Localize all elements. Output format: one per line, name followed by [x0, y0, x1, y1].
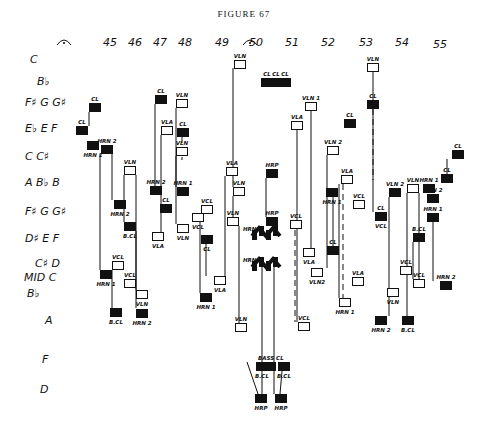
filled-note-box: [278, 362, 290, 371]
open-note-box: [367, 63, 379, 72]
instrument-label: VCL: [369, 223, 393, 229]
open-note-box: [227, 217, 239, 226]
filled-note-box: [275, 394, 287, 403]
open-note-box: [233, 187, 245, 196]
instrument-label: HRN 2: [369, 327, 393, 333]
instrument-label: B.CL: [104, 319, 128, 325]
instrument-label: VLN2: [305, 279, 329, 285]
open-note-box: [136, 290, 148, 299]
filled-note-box: [100, 270, 112, 279]
filled-note-box: [266, 169, 278, 178]
instrument-label: HRN 1: [320, 199, 344, 205]
instrument-label: VLA: [297, 259, 321, 265]
open-note-box: [303, 248, 315, 257]
filled-note-box: [76, 126, 88, 135]
instrument-label: HRN 2: [144, 179, 168, 185]
instrument-label: VLN: [381, 299, 405, 305]
filled-note-box: [201, 235, 213, 244]
filled-note-box: [402, 316, 414, 325]
instrument-label: CL: [154, 197, 178, 203]
open-note-box: [124, 279, 136, 288]
instrument-label: VLA: [346, 270, 370, 276]
open-note-box: [352, 277, 364, 286]
filled-note-box: [124, 222, 136, 231]
open-note-box: [291, 121, 303, 130]
instrument-label: VCL: [118, 272, 142, 278]
instrument-label: HRN 1: [94, 281, 118, 287]
instrument-label: VLA: [220, 160, 244, 166]
filled-note-box: [177, 187, 189, 196]
filled-note-box: [266, 217, 278, 226]
instrument-label: VLN: [221, 210, 245, 216]
filled-note-box: [441, 174, 453, 183]
open-note-box: [353, 200, 365, 209]
instrument-label: CL: [361, 93, 385, 99]
open-note-box: [112, 261, 124, 270]
filled-note-box: [160, 204, 172, 213]
filled-note-box: [89, 103, 101, 112]
instrument-label: VLN: [228, 53, 252, 59]
instrument-label: VLN 2: [321, 139, 345, 145]
instrument-label: VLN: [118, 159, 142, 165]
instrument-label: VCL: [407, 272, 431, 278]
instrument-label: CL: [171, 121, 195, 127]
instrument-label: VLN: [130, 301, 154, 307]
instrument-label: B.CL: [407, 226, 431, 232]
open-note-box: [305, 102, 317, 111]
instrument-label: CL: [70, 119, 94, 125]
instrument-label: VLA: [146, 243, 170, 249]
instrument-label: VCL: [186, 224, 210, 230]
filled-note-box: [326, 188, 338, 197]
instrument-label: HRN 2: [421, 187, 445, 193]
instrument-label: VLN: [171, 235, 195, 241]
filled-note-box: [375, 316, 387, 325]
filled-note-box: [150, 186, 162, 195]
instrument-label: VLA: [285, 114, 309, 120]
instrument-label: B.CL: [250, 373, 274, 379]
instrument-label: VCL: [347, 193, 371, 199]
instrument-label: B.CL: [118, 233, 142, 239]
instrument-label: VCL: [195, 198, 219, 204]
instrument-label: HRP: [260, 162, 284, 168]
instrument-label: HRN 2: [108, 211, 132, 217]
open-note-box: [298, 322, 310, 331]
instrument-label: HRN 1: [417, 177, 441, 183]
filled-note-box: [367, 100, 379, 109]
instrument-label: HRN 1: [243, 226, 262, 232]
instrument-label: CL: [446, 143, 470, 149]
open-note-box: [176, 147, 188, 156]
instrument-label: CL: [435, 167, 459, 173]
instrument-label: HRN 1: [194, 304, 218, 310]
filled-note-box: [427, 194, 439, 203]
instrument-label: CL: [273, 71, 297, 77]
instrument-label: VLN: [229, 316, 253, 322]
open-note-box: [214, 276, 226, 285]
filled-note-box: [344, 119, 356, 128]
filled-note-box: [279, 78, 291, 87]
open-note-box: [152, 232, 164, 241]
open-note-box: [339, 298, 351, 307]
open-note-box: [192, 213, 204, 222]
filled-note-box: [110, 308, 122, 317]
instrument-label: HRN 1: [333, 309, 357, 315]
instrument-label: B.CL: [396, 327, 420, 333]
instrument-label: VLN: [227, 180, 251, 186]
open-note-box: [234, 60, 246, 69]
open-note-box: [387, 288, 399, 297]
instrument-label: HRP: [260, 210, 284, 216]
open-note-box: [124, 166, 136, 175]
filled-note-box: [87, 141, 99, 150]
figure-67: FIGURE 67 4546474849505152535455 CB♭F♯ G…: [0, 0, 488, 427]
filled-note-box: [427, 213, 439, 222]
instrument-label: B.CL: [272, 373, 296, 379]
open-note-box: [407, 184, 419, 193]
instrument-label: VLN 1: [299, 95, 323, 101]
filled-note-box: [200, 293, 212, 302]
filled-note-box: [452, 150, 464, 159]
filled-note-box: [256, 362, 268, 371]
instrument-label: HRN 1: [421, 206, 445, 212]
instrument-label: HRN 2: [434, 274, 458, 280]
open-note-box: [341, 175, 353, 184]
filled-note-box: [177, 128, 189, 137]
filled-note-box: [327, 246, 339, 255]
